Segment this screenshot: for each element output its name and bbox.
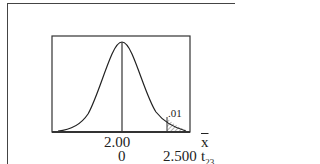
t-critical-value: 2.500 [163, 149, 197, 164]
tail-area-label: .01 [168, 106, 182, 121]
t-degrees-of-freedom: 23 [205, 157, 214, 164]
t-axis-label: t23 [201, 149, 214, 164]
t-center-value: 0 [118, 149, 126, 164]
